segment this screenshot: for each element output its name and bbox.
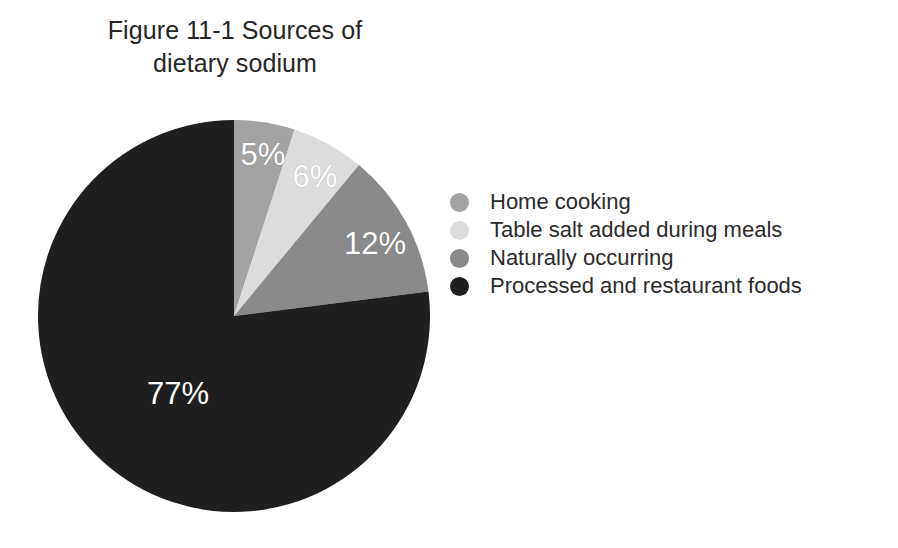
- legend-item-processed-foods: Processed and restaurant foods: [450, 272, 880, 300]
- legend-item-naturally-occurring: Naturally occurring: [450, 244, 880, 272]
- legend-label-table-salt: Table salt added during meals: [490, 218, 782, 242]
- chart-title-line-2: dietary sodium: [40, 47, 430, 80]
- legend-item-home-cooking: Home cooking: [450, 188, 880, 216]
- pie-chart-svg: [38, 116, 430, 516]
- chart-title: Figure 11-1 Sources of dietary sodium: [40, 14, 430, 80]
- legend-swatch-home-cooking: [450, 193, 469, 212]
- pie-chart: 5% 6% 12% 77%: [38, 116, 430, 516]
- legend-swatch-table-salt: [450, 221, 469, 240]
- legend-item-table-salt: Table salt added during meals: [450, 216, 880, 244]
- legend-swatch-naturally-occurring: [450, 249, 469, 268]
- legend-swatch-processed-foods: [450, 277, 469, 296]
- pie-slice-label-table-salt: 6%: [293, 161, 338, 192]
- pie-slice-label-processed-foods: 77%: [147, 378, 209, 409]
- legend-label-home-cooking: Home cooking: [490, 190, 631, 214]
- chart-legend: Home cooking Table salt added during mea…: [450, 188, 880, 300]
- chart-title-line-1: Figure 11-1 Sources of: [40, 14, 430, 47]
- legend-label-processed-foods: Processed and restaurant foods: [490, 274, 802, 298]
- pie-slice-label-naturally-occurring: 12%: [344, 228, 406, 259]
- pie-slice-group: [38, 120, 430, 512]
- legend-label-naturally-occurring: Naturally occurring: [490, 246, 673, 270]
- pie-slice-label-home-cooking: 5%: [241, 139, 286, 170]
